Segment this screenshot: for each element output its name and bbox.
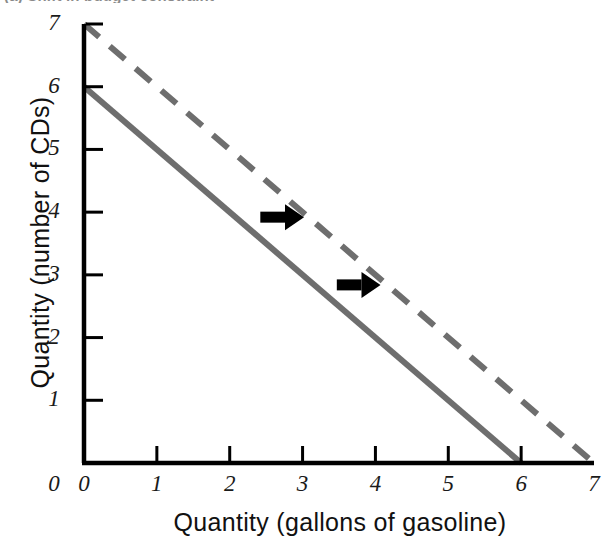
series-line-0 [84, 87, 521, 463]
y-axis-title: Quantity (number of CDs) [26, 8, 55, 478]
x-tick-label-1: 1 [142, 472, 172, 495]
chart-figure: (a) Shift in budget constraint 012345670… [0, 0, 615, 552]
series-group [84, 24, 594, 463]
x-tick-label-3: 3 [288, 472, 318, 495]
x-tick-label-6: 6 [506, 472, 536, 495]
x-axis-title: Quantity (gallons of gasoline) [84, 508, 596, 537]
shift-arrow-lower-shaft [337, 279, 362, 290]
axes-group [82, 24, 594, 463]
chart-svg [0, 0, 615, 552]
ticks-group [86, 24, 521, 461]
series-line-1 [84, 24, 594, 463]
plot-area [0, 0, 615, 552]
x-tick-label-4: 4 [360, 472, 390, 495]
x-tick-label-7: 7 [579, 472, 609, 495]
x-tick-label-0: 0 [69, 472, 99, 495]
x-tick-label-5: 5 [433, 472, 463, 495]
shift-arrow-upper-shaft [260, 212, 285, 223]
x-tick-label-2: 2 [215, 472, 245, 495]
